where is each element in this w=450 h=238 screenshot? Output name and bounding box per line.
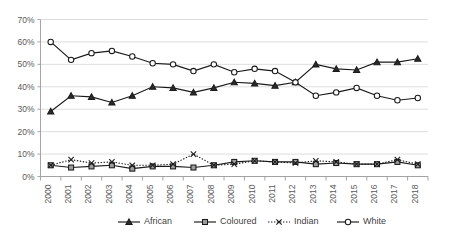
data-point-white-2010 (252, 66, 257, 71)
chart-legend: AfricanColouredIndianWhite (118, 216, 386, 226)
legend-item-coloured[interactable]: Coloured (194, 216, 257, 226)
x-tick-label: 2003 (104, 184, 114, 203)
x-tick-label: 2004 (124, 184, 134, 203)
y-tick-label: 40% (17, 82, 34, 92)
data-point-white-2003 (109, 48, 114, 53)
y-tick-label: 30% (17, 104, 34, 114)
line-chart: 0%10%20%30%40%50%60%70% 2000200120022003… (0, 0, 450, 238)
data-point-white-2002 (89, 50, 94, 55)
legend-item-indian[interactable]: Indian (268, 216, 319, 226)
x-tick-label: 2018 (410, 184, 420, 203)
x-tick-label: 2001 (63, 184, 73, 203)
legend-item-white[interactable]: White (337, 216, 386, 226)
x-tick-label: 2008 (206, 184, 216, 203)
x-tick-label: 2014 (328, 184, 338, 203)
x-tick-label: 2017 (389, 184, 399, 203)
gridlines (41, 20, 429, 177)
data-point-coloured-2001 (69, 165, 74, 170)
x-tick-label: 2000 (43, 184, 53, 203)
y-tick-label: 0% (22, 172, 35, 182)
data-point-white-2011 (272, 68, 277, 73)
legend-label-african: African (144, 216, 172, 226)
legend-label-white: White (363, 216, 386, 226)
x-tick-label: 2010 (247, 184, 257, 203)
data-point-white-2004 (130, 54, 135, 59)
x-tick-label: 2009 (226, 184, 236, 203)
data-point-white-2000 (48, 39, 53, 44)
data-point-white-2001 (68, 57, 73, 62)
data-point-white-2018 (415, 95, 420, 100)
data-point-white-2008 (211, 62, 216, 67)
legend-label-indian: Indian (294, 216, 319, 226)
chart-canvas: 0%10%20%30%40%50%60%70% 2000200120022003… (0, 0, 450, 238)
x-tick-label: 2007 (185, 184, 195, 203)
x-tick-label: 2016 (369, 184, 379, 203)
data-point-white-2015 (354, 85, 359, 90)
y-tick-label: 20% (17, 127, 34, 137)
y-tick-label: 50% (17, 59, 34, 69)
data-point-african-2018 (415, 56, 421, 62)
legend-marker-white (345, 219, 350, 224)
data-point-white-2014 (334, 90, 339, 95)
x-tick-label: 2013 (308, 184, 318, 203)
data-point-coloured-2007 (191, 165, 196, 170)
series-layer (48, 39, 421, 171)
x-tick-label: 2012 (287, 184, 297, 203)
data-point-white-2009 (232, 70, 237, 75)
y-axis (38, 20, 41, 177)
y-tick-label: 60% (17, 37, 34, 47)
series-white (48, 39, 421, 103)
legend-label-coloured: Coloured (220, 216, 257, 226)
legend-marker-coloured (203, 220, 208, 225)
x-tick-label: 2005 (145, 184, 155, 203)
data-point-white-2012 (293, 80, 298, 85)
y-tick-label: 70% (17, 15, 34, 25)
x-tick-label: 2006 (165, 184, 175, 203)
x-tick-label: 2015 (349, 184, 359, 203)
x-tick-label: 2011 (267, 184, 277, 203)
x-axis-tick-marks (41, 177, 429, 181)
data-point-white-2005 (150, 61, 155, 66)
data-point-white-2017 (395, 98, 400, 103)
legend-item-african[interactable]: African (118, 216, 172, 226)
data-point-white-2016 (374, 93, 379, 98)
x-tick-label: 2002 (83, 184, 93, 203)
x-axis-tick-labels: 2000200120022003200420052006200720082009… (43, 184, 420, 203)
data-point-white-2007 (191, 68, 196, 73)
y-tick-label: 10% (17, 149, 34, 159)
data-point-white-2006 (170, 62, 175, 67)
data-point-white-2013 (313, 93, 318, 98)
y-axis-tick-labels: 0%10%20%30%40%50%60%70% (17, 15, 34, 182)
data-point-african-2004 (129, 93, 135, 99)
